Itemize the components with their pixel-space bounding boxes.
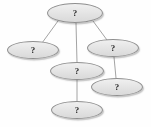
node-right[interactable]: ?	[87, 39, 139, 57]
node-lower-right[interactable]: ?	[91, 78, 143, 96]
diagram-canvas: ??????	[0, 0, 151, 127]
edge-top-to-left[interactable]	[42, 21, 58, 43]
node-right-label: ?	[111, 44, 116, 53]
node-lower-right-label: ?	[115, 83, 120, 92]
node-left-label: ?	[31, 46, 36, 55]
node-middle[interactable]: ?	[50, 62, 104, 80]
node-top[interactable]: ?	[47, 3, 103, 23]
node-top-label: ?	[73, 9, 78, 18]
node-middle-label: ?	[75, 67, 80, 76]
node-bottom-label: ?	[75, 106, 80, 115]
node-bottom[interactable]: ?	[51, 101, 103, 119]
edge-top-to-right[interactable]	[93, 21, 107, 40]
edge-top-to-middle[interactable]	[76, 23, 77, 62]
figure-layer: ??????	[0, 0, 151, 127]
node-left[interactable]: ?	[7, 41, 59, 59]
edge-right-to-lower-right[interactable]	[114, 57, 116, 78]
